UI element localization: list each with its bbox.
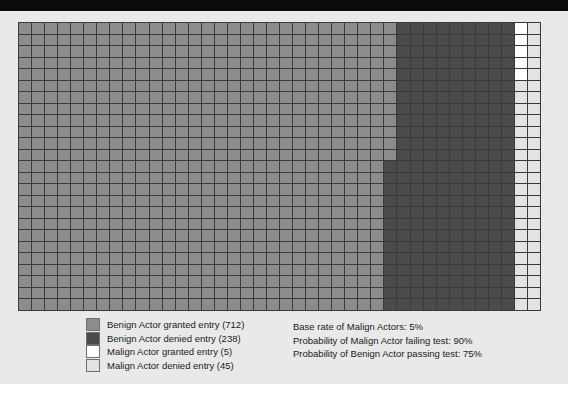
cell-benign-granted (150, 276, 162, 287)
cell-benign-granted (58, 104, 70, 115)
cell-benign-granted (189, 207, 201, 218)
cell-benign-denied (489, 242, 501, 253)
cell-benign-granted (358, 58, 370, 69)
cell-benign-granted (32, 242, 44, 253)
cell-benign-granted (241, 253, 253, 264)
cell-benign-granted (293, 104, 305, 115)
cell-benign-denied (463, 230, 475, 241)
cell-benign-denied (476, 196, 488, 207)
cell-benign-granted (45, 92, 57, 103)
cell-benign-granted (136, 196, 148, 207)
cell-benign-granted (123, 92, 135, 103)
cell-benign-granted (176, 299, 188, 310)
cell-benign-granted (228, 161, 240, 172)
cell-benign-granted (293, 276, 305, 287)
cell-benign-granted (71, 173, 83, 184)
cell-benign-granted (123, 35, 135, 46)
cell-benign-granted (358, 127, 370, 138)
legend-swatch-malign-denied (86, 359, 100, 372)
cell-benign-granted (228, 58, 240, 69)
cell-benign-denied (424, 150, 436, 161)
cell-benign-granted (71, 265, 83, 276)
cell-benign-granted (163, 115, 175, 126)
cell-benign-denied (450, 150, 462, 161)
cell-benign-denied (411, 161, 423, 172)
cell-benign-granted (241, 242, 253, 253)
cell-malign-denied (528, 23, 540, 34)
cell-benign-denied (463, 23, 475, 34)
cell-benign-granted (254, 184, 266, 195)
cell-benign-denied (489, 23, 501, 34)
cell-benign-granted (136, 253, 148, 264)
cell-benign-granted (19, 127, 31, 138)
cell-benign-granted (215, 253, 227, 264)
legend-swatch-malign-granted (86, 345, 100, 358)
cell-benign-denied (476, 219, 488, 230)
cell-benign-denied (502, 92, 514, 103)
cell-benign-denied (424, 299, 436, 310)
cell-malign-denied (528, 276, 540, 287)
cell-benign-granted (371, 138, 383, 149)
cell-benign-granted (189, 276, 201, 287)
cell-benign-denied (437, 196, 449, 207)
cell-benign-granted (280, 150, 292, 161)
cell-benign-granted (280, 115, 292, 126)
cell-benign-denied (424, 276, 436, 287)
cell-benign-granted (228, 207, 240, 218)
cell-malign-denied (528, 58, 540, 69)
cell-benign-denied (463, 58, 475, 69)
cell-benign-denied (502, 242, 514, 253)
cell-benign-granted (136, 115, 148, 126)
cell-benign-granted (215, 207, 227, 218)
cell-benign-granted (163, 46, 175, 57)
cell-benign-denied (437, 173, 449, 184)
cell-benign-granted (241, 265, 253, 276)
cell-benign-denied (489, 92, 501, 103)
cell-benign-granted (150, 81, 162, 92)
cell-malign-denied (528, 69, 540, 80)
cell-benign-granted (358, 299, 370, 310)
cell-benign-granted (176, 81, 188, 92)
cell-benign-granted (97, 127, 109, 138)
cell-benign-granted (306, 115, 318, 126)
cell-benign-granted (136, 138, 148, 149)
cell-benign-denied (384, 161, 396, 172)
cell-benign-granted (150, 138, 162, 149)
cell-benign-granted (293, 23, 305, 34)
cell-benign-granted (150, 230, 162, 241)
cell-benign-granted (45, 69, 57, 80)
cell-benign-granted (45, 219, 57, 230)
cell-benign-granted (202, 173, 214, 184)
cell-benign-granted (123, 219, 135, 230)
cell-benign-granted (163, 58, 175, 69)
cell-benign-granted (228, 69, 240, 80)
cell-benign-granted (110, 81, 122, 92)
figure-canvas: Benign Actor granted entry (712) Benign … (0, 0, 568, 402)
cell-benign-granted (45, 196, 57, 207)
cell-benign-denied (489, 219, 501, 230)
cell-benign-denied (437, 69, 449, 80)
cell-benign-denied (397, 92, 409, 103)
cell-benign-granted (293, 150, 305, 161)
cell-benign-granted (150, 184, 162, 195)
cell-benign-granted (189, 265, 201, 276)
cell-benign-denied (411, 92, 423, 103)
cell-benign-granted (293, 184, 305, 195)
cell-benign-granted (189, 104, 201, 115)
cell-benign-denied (502, 276, 514, 287)
cell-benign-denied (502, 299, 514, 310)
cell-malign-denied (515, 81, 527, 92)
cell-benign-granted (176, 288, 188, 299)
cell-benign-denied (411, 196, 423, 207)
cell-benign-granted (319, 58, 331, 69)
cell-benign-granted (97, 184, 109, 195)
cell-benign-granted (319, 69, 331, 80)
cell-malign-granted (515, 35, 527, 46)
cell-benign-granted (71, 196, 83, 207)
cell-benign-denied (476, 288, 488, 299)
cell-malign-denied (528, 173, 540, 184)
cell-benign-granted (215, 138, 227, 149)
cell-benign-granted (371, 288, 383, 299)
cell-benign-granted (228, 150, 240, 161)
cell-benign-denied (437, 288, 449, 299)
